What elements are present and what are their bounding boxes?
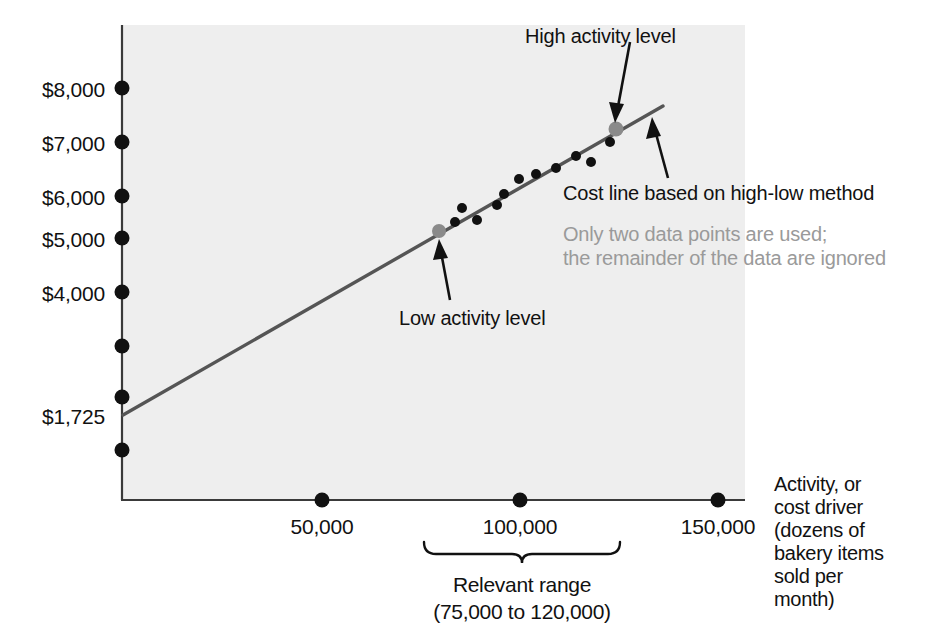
low-activity-level-label: Low activity level: [399, 306, 545, 331]
data-point: [457, 203, 467, 213]
y-tick-label-5000: $5,000: [0, 227, 105, 253]
x-tick-dot: [513, 493, 528, 508]
high-activity-level-label: High activity level: [525, 24, 676, 49]
data-point: [571, 151, 581, 161]
y-tick-dot: [115, 443, 130, 458]
x-axis-caption-line-2: cost driver: [774, 496, 939, 519]
y-tick-dot: [115, 135, 130, 150]
note-line-2: the remainder of the data are ignored: [563, 246, 886, 271]
x-axis-caption-line-6: month): [774, 588, 939, 611]
x-axis-caption-line-4: bakery items: [774, 542, 939, 565]
y-tick-dot: [115, 339, 130, 354]
data-point: [531, 169, 541, 179]
relevant-range-label-line-1: Relevant range: [372, 572, 672, 598]
relevant-range-bracket: [424, 542, 620, 563]
chart-figure: $8,000 $7,000 $6,000 $5,000 $4,000 $1,72…: [0, 0, 944, 631]
y-tick-label-1725: $1,725: [0, 404, 105, 430]
low-activity-point: [432, 224, 446, 238]
x-tick-label-50000: 50,000: [242, 514, 402, 540]
data-point: [492, 200, 502, 210]
y-tick-dot: [115, 285, 130, 300]
note-line-1: Only two data points are used;: [563, 222, 827, 247]
cost-line-label: Cost line based on high-low method: [563, 181, 874, 206]
data-point: [551, 163, 561, 173]
x-axis-caption-line-3: (dozens of: [774, 519, 939, 542]
x-tick-dot: [315, 493, 330, 508]
y-tick-label-7000: $7,000: [0, 131, 105, 157]
y-tick-dot: [115, 81, 130, 96]
data-point: [514, 174, 524, 184]
y-tick-label-4000: $4,000: [0, 281, 105, 307]
y-tick-label-6000: $6,000: [0, 185, 105, 211]
high-activity-point: [609, 122, 624, 137]
y-tick-dot: [115, 189, 130, 204]
data-point: [450, 217, 460, 227]
y-tick-dot: [115, 231, 130, 246]
data-point: [472, 215, 482, 225]
data-point: [605, 137, 615, 147]
y-tick-dot: [115, 390, 130, 405]
y-tick-label-8000: $8,000: [0, 77, 105, 103]
x-axis-caption: Activity, or cost driver (dozens of bake…: [774, 473, 939, 611]
data-point: [499, 189, 509, 199]
x-axis-caption-line-5: sold per: [774, 565, 939, 588]
x-tick-dot: [711, 493, 726, 508]
x-axis-caption-line-1: Activity, or: [774, 473, 939, 496]
x-tick-label-100000: 100,000: [435, 514, 605, 540]
relevant-range-label-line-2: (75,000 to 120,000): [372, 599, 672, 625]
data-point: [586, 157, 596, 167]
